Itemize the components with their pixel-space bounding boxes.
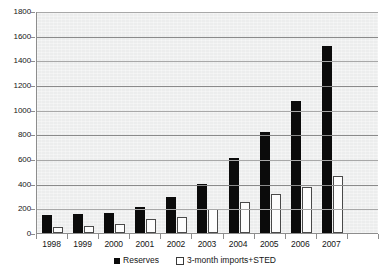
gridline — [37, 12, 378, 13]
x-axis-tick-mark — [378, 234, 379, 239]
bar-group — [224, 158, 255, 233]
y-axis-tick-label: 0 — [0, 230, 31, 238]
x-axis-tick-mark — [285, 234, 286, 239]
bar-chart: 020040060080010001200140016001800 199819… — [0, 0, 390, 276]
x-axis-tick-mark — [316, 234, 317, 239]
y-axis-tick-label: 200 — [0, 205, 31, 213]
y-axis-tick-mark — [31, 37, 35, 38]
x-axis-tick-label: 1998 — [36, 240, 67, 249]
x-axis-tick-mark — [36, 234, 37, 239]
bar-imports — [53, 227, 63, 233]
x-axis-tick-mark — [160, 234, 161, 239]
x-axis-tick-mark — [67, 234, 68, 239]
y-axis-tick-label: 600 — [0, 156, 31, 164]
bar-group — [255, 132, 286, 233]
filled-square-icon — [114, 258, 120, 264]
bar-reserves — [291, 101, 301, 233]
plot-area — [36, 12, 378, 234]
bar-group — [317, 46, 348, 233]
bar-imports — [115, 224, 125, 233]
y-axis-tick-label: 1000 — [0, 107, 31, 115]
y-axis-tick-mark — [31, 86, 35, 87]
bar-reserves — [322, 46, 332, 233]
bar-reserves — [260, 132, 270, 233]
gridline — [37, 61, 378, 62]
x-axis-tick-label: 2001 — [129, 240, 160, 249]
gridline — [37, 160, 378, 161]
y-axis-tick-mark — [31, 234, 35, 235]
x-axis-tick-label: 2004 — [223, 240, 254, 249]
x-axis-tick-label: 2005 — [254, 240, 285, 249]
y-axis-tick-mark — [31, 61, 35, 62]
legend-label: 3-month imports+STED — [187, 256, 276, 265]
gridline — [37, 209, 378, 210]
x-axis-tick-label: 2007 — [316, 240, 347, 249]
bar-group — [99, 213, 130, 233]
y-axis-tick-label: 1800 — [0, 8, 31, 16]
y-axis-tick-label: 1600 — [0, 33, 31, 41]
x-axis-tick-label: 2000 — [98, 240, 129, 249]
x-axis-tick-mark — [254, 234, 255, 239]
bar-imports — [84, 226, 94, 233]
bar-imports — [208, 209, 218, 233]
gridline — [37, 185, 378, 186]
x-axis-tick-mark — [191, 234, 192, 239]
bar-imports — [240, 202, 250, 233]
bar-group — [286, 101, 317, 233]
y-axis-tick-label: 800 — [0, 131, 31, 139]
bar-reserves — [42, 215, 52, 233]
chart-legend: Reserves 3-month imports+STED — [0, 256, 390, 265]
bar-group — [192, 184, 223, 233]
bar-group — [161, 197, 192, 233]
x-axis-tick-mark — [129, 234, 130, 239]
legend-item-reserves: Reserves — [114, 256, 159, 265]
bar-group — [130, 207, 161, 233]
bar-reserves — [73, 214, 83, 233]
x-axis-tick-mark — [98, 234, 99, 239]
x-axis-tick-mark — [223, 234, 224, 239]
gridline — [37, 86, 378, 87]
bar-reserves — [197, 184, 207, 233]
y-axis-tick-mark — [31, 12, 35, 13]
bar-reserves — [229, 158, 239, 233]
gridline — [37, 37, 378, 38]
bars-layer — [37, 12, 378, 233]
bar-reserves — [166, 197, 176, 233]
x-axis-tick-label: 2006 — [285, 240, 316, 249]
gridline — [37, 135, 378, 136]
gridline — [37, 111, 378, 112]
open-square-icon — [176, 257, 184, 265]
x-axis-tick-mark — [347, 234, 348, 239]
legend-label: Reserves — [123, 256, 159, 265]
bar-imports — [271, 194, 281, 233]
bar-imports — [177, 217, 187, 233]
x-axis-tick-label: 1999 — [67, 240, 98, 249]
y-axis-tick-mark — [31, 135, 35, 136]
y-axis-tick-label: 400 — [0, 181, 31, 189]
y-axis-tick-label: 1400 — [0, 57, 31, 65]
bar-imports — [146, 219, 156, 233]
legend-item-imports: 3-month imports+STED — [176, 256, 276, 265]
x-axis-tick-label: 2002 — [160, 240, 191, 249]
y-axis-tick-mark — [31, 185, 35, 186]
bar-reserves — [135, 207, 145, 233]
y-axis-tick-mark — [31, 111, 35, 112]
x-axis-tick-label: 2003 — [191, 240, 222, 249]
bar-group — [37, 215, 68, 233]
bar-reserves — [104, 213, 114, 233]
y-axis-tick-mark — [31, 160, 35, 161]
bar-group — [68, 214, 99, 233]
y-axis-tick-label: 1200 — [0, 82, 31, 90]
y-axis-tick-mark — [31, 209, 35, 210]
